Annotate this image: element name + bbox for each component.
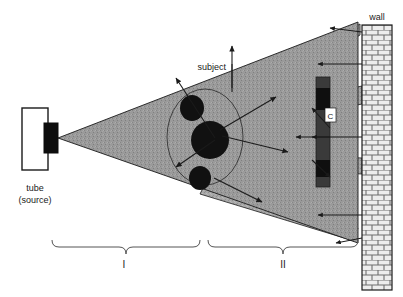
- lead-wall-group: [362, 25, 392, 290]
- cassette-dark-top: [316, 88, 330, 110]
- zone-brace-group: [52, 240, 358, 254]
- tube-label-line2: (source): [18, 195, 51, 205]
- cassette-label: C: [328, 112, 334, 121]
- zone-two-label: II: [280, 259, 286, 270]
- tube-assembly: [22, 108, 58, 170]
- brace-zone-two: [208, 240, 358, 254]
- xray-scatter-diagram: tube (source) subject wall C I II: [0, 0, 403, 297]
- wall-label: wall: [368, 12, 385, 22]
- tube-label-line1: tube: [26, 183, 44, 193]
- subject-label: subject: [197, 62, 226, 72]
- x-ray-tube-port: [44, 123, 58, 153]
- brace-zone-one: [52, 240, 200, 254]
- lead-wall: [362, 25, 392, 290]
- zone-one-label: I: [123, 259, 126, 270]
- organ-lower: [189, 166, 211, 190]
- organ-upper: [180, 95, 204, 121]
- cassette-label-group: C: [325, 108, 336, 122]
- diagram-canvas: tube (source) subject wall C I II: [0, 0, 403, 297]
